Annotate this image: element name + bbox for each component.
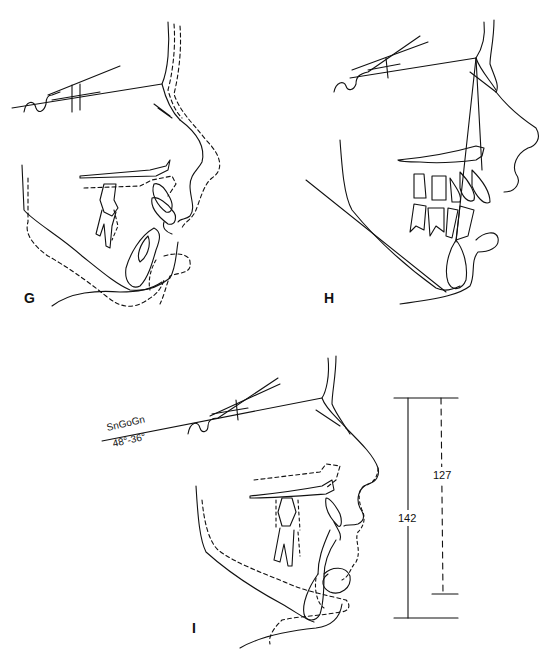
total-face-height-dashed: 127 xyxy=(433,467,451,483)
panel-g-tracing xyxy=(12,22,220,306)
face-height-measurements xyxy=(394,398,458,618)
cephalometric-figure: G H I SnGoGn 48°-36° 142 127 xyxy=(0,0,549,660)
total-face-height-solid: 142 xyxy=(398,510,416,526)
panel-label-h: H xyxy=(324,290,334,306)
panel-label-g: G xyxy=(24,290,35,306)
panel-h-tracing xyxy=(306,20,538,304)
panel-label-i: I xyxy=(192,620,196,636)
panel-i-tracing xyxy=(102,356,379,648)
tracing-canvas xyxy=(0,0,549,660)
